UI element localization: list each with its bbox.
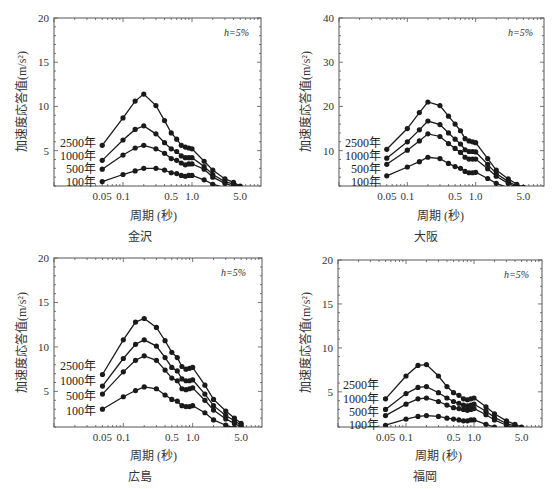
data-point-marker <box>437 122 442 127</box>
x-tick-label: 0.1 <box>116 190 130 202</box>
data-point-marker <box>175 378 180 383</box>
data-point-marker <box>424 413 429 418</box>
data-point-marker <box>436 373 441 378</box>
data-point-marker <box>446 130 451 135</box>
data-point-marker <box>133 145 138 150</box>
data-point-marker <box>451 399 456 404</box>
chart-panel-hiroshima: 51015200.050.10.51.05.0 加速度応答值(m/s²) h=5… <box>0 245 278 489</box>
x-tick-label: 0.1 <box>400 190 414 202</box>
data-point-marker <box>169 365 174 370</box>
data-point-marker <box>232 425 237 430</box>
data-point-marker <box>189 146 194 151</box>
data-point-marker <box>153 166 158 171</box>
legend-label-100: 100年 <box>333 172 381 190</box>
data-point-marker <box>483 422 488 427</box>
data-point-marker <box>403 391 408 396</box>
y-tick-label: 15 <box>38 56 50 68</box>
data-point-marker <box>175 399 180 404</box>
data-point-marker <box>473 170 478 175</box>
data-point-marker <box>189 161 194 166</box>
y-tick-label: 10 <box>38 341 50 353</box>
data-point-marker <box>100 407 105 412</box>
data-point-marker <box>175 355 180 360</box>
data-point-marker <box>190 377 195 382</box>
data-point-marker <box>120 152 125 157</box>
chart-title: 福岡 <box>413 467 437 485</box>
data-point-marker <box>424 362 429 367</box>
data-point-marker <box>142 353 147 358</box>
data-point-marker <box>141 143 146 148</box>
data-point-marker <box>121 394 126 399</box>
y-axis-label: 加速度応答值(m/s²) <box>12 51 30 152</box>
data-point-marker <box>473 149 478 154</box>
data-point-marker <box>415 385 420 390</box>
data-point-marker <box>133 99 138 104</box>
data-point-marker <box>425 99 430 104</box>
data-point-marker <box>202 398 207 403</box>
y-tick-label: 40 <box>323 12 335 24</box>
data-point-marker <box>417 110 422 115</box>
data-point-marker <box>133 127 138 132</box>
damping-annotation: h=5% <box>508 27 533 38</box>
y-tick-label: 20 <box>38 252 50 264</box>
data-point-marker <box>452 137 457 142</box>
data-point-marker <box>154 386 159 391</box>
legend-label-100: 100年 <box>48 401 96 419</box>
x-tick-label: 0.5 <box>165 431 179 443</box>
data-point-marker <box>384 173 389 178</box>
data-point-marker <box>174 158 179 163</box>
data-point-marker <box>403 402 408 407</box>
x-tick-label: 0.5 <box>164 190 178 202</box>
data-point-marker <box>141 166 146 171</box>
data-point-marker <box>202 177 207 182</box>
data-point-marker <box>485 162 490 167</box>
data-point-marker <box>384 162 389 167</box>
data-point-marker <box>437 156 442 161</box>
data-point-marker <box>141 91 146 96</box>
data-point-marker <box>451 405 456 410</box>
data-point-marker <box>456 417 461 422</box>
y-axis-label: 加速度応答值(m/s²) <box>12 292 30 393</box>
data-point-marker <box>223 408 228 413</box>
data-point-marker <box>415 396 420 401</box>
data-point-marker <box>425 118 430 123</box>
data-point-marker <box>120 172 125 177</box>
data-point-marker <box>485 176 490 181</box>
data-point-marker <box>169 350 174 355</box>
data-point-marker <box>383 396 388 401</box>
x-tick-label: 1.0 <box>469 190 483 202</box>
data-point-marker <box>405 164 410 169</box>
data-point-marker <box>471 395 476 400</box>
data-point-marker <box>471 406 476 411</box>
data-point-marker <box>100 158 105 163</box>
damping-annotation: h=5% <box>504 269 529 280</box>
data-point-marker <box>446 161 451 166</box>
data-point-marker <box>202 159 207 164</box>
chart-panel-kanazawa: 51015200.050.10.51.05.0 加速度応答值(m/s²) h=5… <box>0 0 278 244</box>
data-point-marker <box>162 355 167 360</box>
data-point-marker <box>162 140 167 145</box>
data-point-marker <box>174 171 179 176</box>
data-point-marker <box>417 138 422 143</box>
x-tick-label: 5.0 <box>517 190 531 202</box>
data-point-marker <box>100 143 105 148</box>
chart-title: 金沢 <box>128 227 152 245</box>
data-point-marker <box>437 103 442 108</box>
data-point-marker <box>512 425 517 430</box>
data-point-marker <box>451 390 456 395</box>
x-tick-label: 1.0 <box>185 190 199 202</box>
data-point-marker <box>210 167 215 172</box>
data-point-marker <box>485 156 490 161</box>
data-point-marker <box>162 118 167 123</box>
data-point-marker <box>436 390 441 395</box>
data-point-marker <box>405 126 410 131</box>
data-point-marker <box>133 319 138 324</box>
data-point-marker <box>383 413 388 418</box>
data-point-marker <box>222 181 227 186</box>
data-point-marker <box>211 417 216 422</box>
data-point-marker <box>415 414 420 419</box>
data-point-marker <box>383 407 388 412</box>
data-point-marker <box>162 367 167 372</box>
data-point-marker <box>169 156 174 161</box>
data-point-marker <box>153 103 158 108</box>
